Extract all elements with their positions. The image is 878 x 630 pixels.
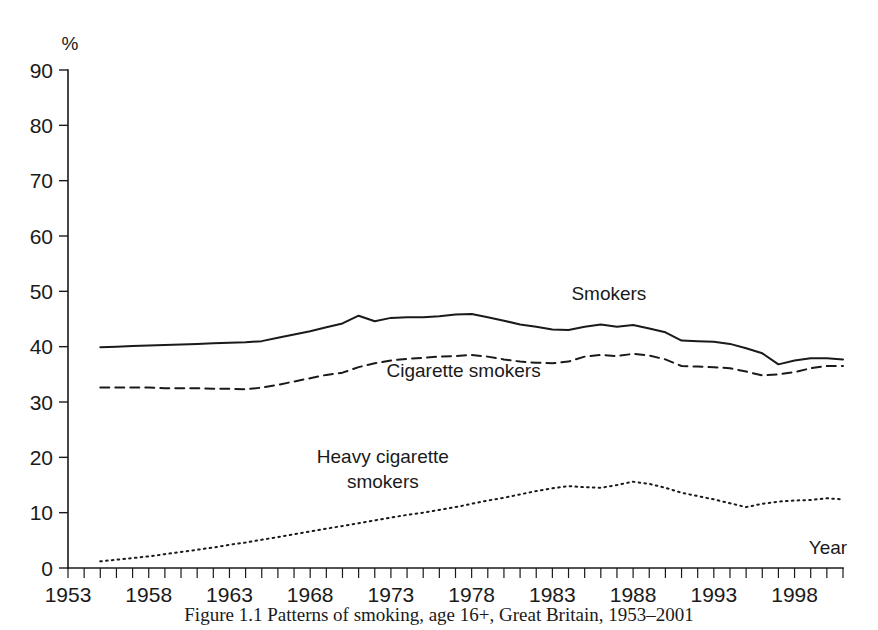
x-tick-label: 1953 xyxy=(45,583,92,606)
series-label-group: SmokersCigarette smokersHeavy cigarettes… xyxy=(317,283,647,492)
y-axis-unit-label: % xyxy=(62,33,79,54)
x-tick-label: 1978 xyxy=(448,583,495,606)
x-tick-label: 1958 xyxy=(125,583,172,606)
x-tick-group: 1953195819631968197319781983198819931998 xyxy=(45,568,843,606)
x-tick-label: 1983 xyxy=(529,583,576,606)
x-tick-label: 1993 xyxy=(690,583,737,606)
x-tick-label: 1968 xyxy=(287,583,334,606)
y-tick-label: 40 xyxy=(30,335,53,358)
y-tick-label: 0 xyxy=(41,557,53,580)
x-tick-label: 1988 xyxy=(610,583,657,606)
y-tick-label: 30 xyxy=(30,391,53,414)
series-label-smokers: Smokers xyxy=(571,283,646,304)
line-chart: 0102030405060708090 19531958196319681973… xyxy=(0,0,878,630)
y-tick-group: 0102030405060708090 xyxy=(30,59,68,580)
axes-group xyxy=(68,70,843,568)
figure-caption: Figure 1.1 Patterns of smoking, age 16+,… xyxy=(0,604,878,626)
y-tick-label: 20 xyxy=(30,446,53,469)
y-tick-label: 60 xyxy=(30,225,53,248)
x-axis-name-label: Year xyxy=(809,537,848,558)
series-group xyxy=(100,314,843,561)
y-tick-label: 50 xyxy=(30,280,53,303)
series-line-smokers xyxy=(100,314,843,364)
y-tick-label: 70 xyxy=(30,169,53,192)
y-tick-label: 90 xyxy=(30,59,53,82)
x-tick-label: 1998 xyxy=(771,583,818,606)
figure-panel: 0102030405060708090 19531958196319681973… xyxy=(0,0,878,630)
series-label-cigarette-smokers: Cigarette smokers xyxy=(386,360,540,381)
y-tick-label: 10 xyxy=(30,501,53,524)
x-tick-label: 1963 xyxy=(206,583,253,606)
x-tick-label: 1973 xyxy=(368,583,415,606)
series-label-heavy-cigarette-smokers: Heavy cigarette xyxy=(317,446,449,467)
series-line-heavy-cigarette-smokers xyxy=(100,482,843,562)
y-tick-label: 80 xyxy=(30,114,53,137)
series-label-heavy-cigarette-smokers: smokers xyxy=(347,471,419,492)
